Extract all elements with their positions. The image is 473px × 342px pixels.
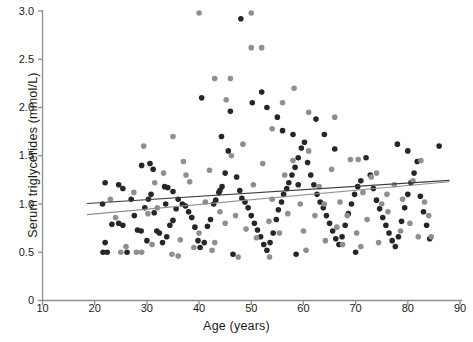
data-point: [324, 213, 330, 219]
data-point: [120, 186, 126, 192]
data-point: [422, 199, 428, 205]
data-point: [355, 157, 361, 163]
data-point: [248, 10, 254, 16]
data-point: [104, 249, 110, 255]
data-point: [248, 213, 254, 219]
data-point: [295, 182, 301, 188]
data-point: [330, 228, 336, 234]
data-point: [149, 242, 155, 248]
data-point: [276, 207, 282, 213]
data-point: [374, 197, 380, 203]
data-point: [411, 170, 417, 176]
data-point: [332, 146, 338, 152]
data-point: [266, 219, 272, 225]
data-point: [405, 148, 411, 154]
data-point: [395, 141, 401, 147]
data-point: [323, 238, 329, 244]
data-point: [282, 172, 288, 178]
data-point: [301, 228, 307, 234]
data-point: [161, 170, 167, 176]
data-point: [312, 213, 318, 219]
data-point: [339, 234, 345, 240]
data-point: [144, 238, 150, 244]
data-point: [148, 192, 154, 198]
data-point: [212, 76, 218, 82]
data-point: [225, 148, 231, 154]
data-point: [400, 196, 406, 202]
data-point: [175, 253, 181, 259]
data-point: [396, 234, 402, 240]
data-point: [138, 228, 144, 234]
data-point: [189, 215, 195, 221]
data-point: [192, 224, 198, 230]
data-point: [337, 199, 343, 205]
data-point: [358, 178, 364, 184]
data-point: [274, 217, 280, 223]
data-point: [132, 213, 138, 219]
data-point: [334, 224, 340, 230]
data-point: [205, 223, 211, 229]
data-point: [123, 244, 129, 250]
data-point: [186, 209, 192, 215]
data-point: [196, 230, 202, 236]
data-point: [302, 139, 308, 145]
data-point: [286, 180, 292, 186]
series-group-gray: [108, 10, 435, 260]
data-point: [385, 209, 391, 215]
data-point: [329, 166, 335, 172]
data-point: [349, 201, 355, 207]
data-point: [251, 182, 257, 188]
data-point: [264, 248, 270, 254]
data-point: [303, 248, 309, 254]
data-point: [360, 190, 366, 196]
data-point: [196, 10, 202, 16]
data-point: [152, 180, 158, 186]
data-point: [291, 85, 297, 91]
data-point: [237, 188, 243, 194]
data-point: [290, 132, 296, 138]
data-point: [342, 222, 348, 228]
data-point: [421, 209, 427, 215]
data-point: [259, 89, 265, 95]
data-point: [293, 251, 299, 257]
data-point: [240, 141, 246, 147]
data-point: [344, 213, 350, 219]
data-point: [424, 222, 430, 228]
data-point: [197, 245, 203, 251]
data-point: [418, 158, 424, 164]
data-point: [306, 110, 312, 116]
data-point: [164, 234, 170, 240]
data-point: [333, 236, 339, 242]
data-point: [213, 197, 219, 203]
data-point: [376, 240, 382, 246]
data-point: [170, 134, 176, 140]
data-point: [169, 251, 175, 257]
data-point: [267, 254, 273, 260]
data-point: [252, 221, 258, 227]
data-point: [177, 237, 183, 243]
data-point: [217, 209, 223, 215]
data-point: [163, 201, 169, 207]
data-point: [139, 249, 145, 255]
data-point: [181, 159, 187, 165]
data-point: [134, 249, 140, 255]
data-point: [238, 16, 244, 22]
y-axis-ticks: [38, 11, 43, 301]
data-point: [280, 100, 286, 106]
data-point: [248, 45, 254, 51]
data-point: [201, 240, 207, 246]
data-point: [109, 221, 115, 227]
data-point: [170, 218, 176, 224]
data-point: [254, 235, 260, 241]
data-point: [199, 95, 205, 101]
data-point: [255, 227, 261, 233]
data-point: [418, 193, 424, 199]
data-point: [108, 196, 114, 202]
data-point: [145, 211, 151, 217]
data-point: [332, 114, 338, 120]
data-point: [208, 217, 214, 223]
data-point: [368, 174, 374, 180]
data-point: [260, 161, 266, 167]
axes: [42, 10, 462, 301]
data-point: [264, 105, 270, 111]
